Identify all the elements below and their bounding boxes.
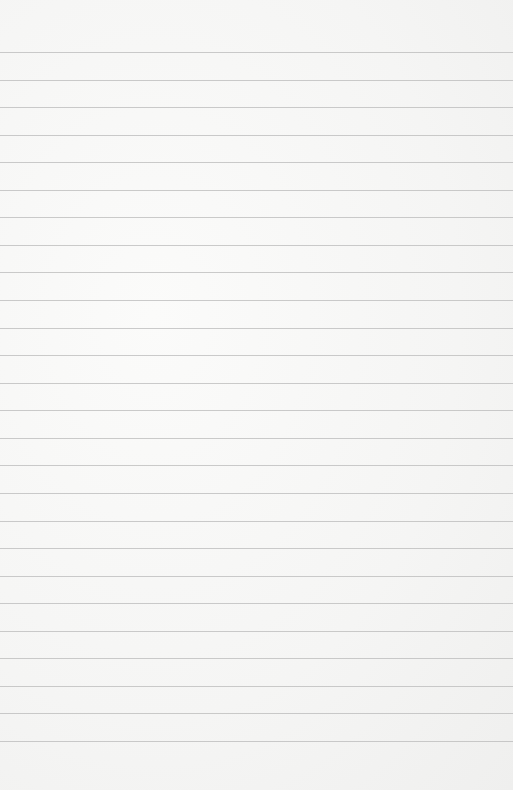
lined-paper-sheet [0,0,513,790]
ruled-line [0,190,513,191]
ruled-line [0,603,513,604]
ruled-line [0,410,513,411]
ruled-line [0,686,513,687]
ruled-line [0,245,513,246]
ruled-line [0,162,513,163]
ruled-line [0,355,513,356]
ruled-line [0,300,513,301]
ruled-line [0,631,513,632]
ruled-line [0,328,513,329]
ruled-line [0,80,513,81]
ruled-line [0,135,513,136]
ruled-line [0,658,513,659]
ruled-line [0,713,513,714]
ruled-line [0,741,513,742]
ruled-line [0,576,513,577]
ruled-line [0,548,513,549]
ruled-line [0,217,513,218]
ruled-line [0,107,513,108]
ruled-line [0,52,513,53]
ruled-line [0,438,513,439]
ruled-line [0,465,513,466]
ruled-line [0,272,513,273]
ruled-line [0,383,513,384]
ruled-line [0,521,513,522]
ruled-line [0,493,513,494]
